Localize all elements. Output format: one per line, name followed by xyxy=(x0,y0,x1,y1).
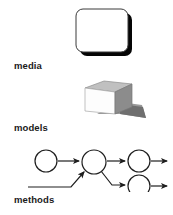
node-n3 xyxy=(128,150,150,172)
methods-figure xyxy=(24,140,173,192)
node-n4 xyxy=(128,175,150,192)
media-figure xyxy=(70,6,170,58)
models-figure xyxy=(80,80,170,122)
edge-external-n2 xyxy=(28,172,84,187)
node-n1 xyxy=(35,150,57,172)
node-n2 xyxy=(82,150,106,174)
figure-canvas: media models xyxy=(0,0,173,215)
media-screen xyxy=(76,9,128,52)
methods-label: methods xyxy=(14,194,54,205)
cube-face-left xyxy=(85,88,115,114)
media-label: media xyxy=(14,60,42,71)
models-label: models xyxy=(14,122,48,133)
edge-n2-n4 xyxy=(101,171,125,185)
